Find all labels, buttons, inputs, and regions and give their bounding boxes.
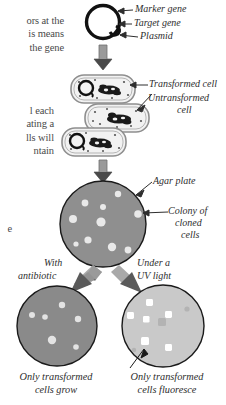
- label-untransformed-cell-line2: cell: [177, 104, 191, 116]
- caption-uv: Only transformed cells fluoresce: [108, 370, 226, 396]
- label-under-uv-line2: UV light: [137, 270, 171, 282]
- arrow-plasmid-to-cells: [94, 45, 112, 70]
- diagram-graphics: [0, 0, 226, 405]
- label-agar-plate: Agar plate: [153, 175, 196, 187]
- body-text-block-3: e: [0, 222, 12, 235]
- plasmid-graphic: [87, 6, 120, 39]
- label-under-uv-line1: Under a: [137, 257, 170, 269]
- body-line: l each: [0, 104, 54, 117]
- label-colony-line3: cells: [181, 229, 199, 241]
- agar-plate-main: [60, 181, 146, 267]
- label-marker-gene: Marker gene: [135, 3, 186, 15]
- label-with-antibiotic-line2: antibiotic: [18, 270, 56, 282]
- caption-line: Only transformed: [108, 370, 226, 383]
- gene-cloning-diagram: ors at the is means the gene l each atin…: [0, 0, 226, 405]
- caption-line: Only transformed: [0, 370, 112, 383]
- caption-antibiotic: Only transformed cells grow: [0, 370, 112, 396]
- caption-line: cells fluoresce: [108, 383, 226, 396]
- label-transformed-cell: Transformed cell: [149, 78, 217, 90]
- body-line: ors at the: [0, 14, 64, 27]
- agar-plate-uv: [122, 285, 204, 368]
- body-line: ating a: [0, 117, 54, 130]
- label-with-antibiotic-line1: With: [44, 257, 62, 269]
- cell-transformed-bottom: [62, 128, 126, 156]
- body-line: e: [0, 222, 12, 235]
- caption-line: cells grow: [0, 383, 112, 396]
- body-text-block-1: ors at the is means the gene: [0, 14, 64, 54]
- arrow-branch-left: [70, 265, 102, 293]
- body-line: ntain: [0, 144, 54, 157]
- label-colony-line2: cloned: [175, 217, 202, 229]
- body-line: is means: [0, 27, 64, 40]
- label-untransformed-cell-line1: Untransformed: [148, 92, 209, 104]
- body-text-block-2: l each ating a lls will ntain: [0, 104, 54, 157]
- agar-plate-antibiotic: [17, 286, 97, 366]
- body-line: the gene: [0, 41, 64, 54]
- cell-transformed-top: [71, 75, 135, 103]
- label-plasmid: Plasmid: [140, 30, 173, 42]
- label-target-gene: Target gene: [134, 17, 181, 29]
- arrow-cells-to-plate: [94, 160, 112, 183]
- label-colony-line1: Colony of: [168, 205, 207, 217]
- body-line: lls will: [0, 131, 54, 144]
